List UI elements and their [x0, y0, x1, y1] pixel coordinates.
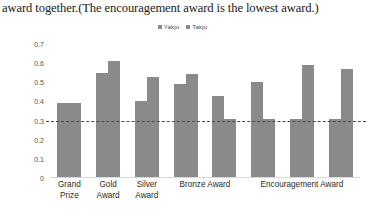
y-axis-tick-label: 0.1: [34, 155, 44, 162]
reference-line: [46, 121, 366, 122]
legend-item: Yakju: [158, 24, 180, 30]
bar-yakju: [135, 101, 147, 178]
legend-item: Takju: [186, 24, 207, 30]
chart-legend: YakjuTakju: [0, 24, 365, 30]
bar-takju: [263, 119, 275, 178]
bar-group: [251, 44, 275, 178]
bar-yakju: [57, 103, 69, 178]
x-axis-baseline: [50, 177, 360, 178]
bar-takju: [341, 69, 353, 178]
legend-label: Takju: [192, 24, 207, 30]
x-axis-labels: Grand PrizeGold AwardSilver AwardBronze …: [50, 180, 360, 216]
bar-yakju: [96, 73, 108, 178]
bar-takju: [147, 77, 159, 178]
bar-group: [329, 44, 353, 178]
y-axis-tick-label: 0.3: [34, 117, 44, 124]
y-axis-tick-label: 0.5: [34, 79, 44, 86]
bar-group: [212, 44, 236, 178]
bar-group: [290, 44, 314, 178]
bar-yakju: [174, 84, 186, 178]
bar-chart: YakjuTakju 0.70.60.50.40.30.20.10 Grand …: [0, 20, 365, 216]
legend-label: Yakju: [164, 24, 180, 30]
bar-takju: [69, 103, 81, 178]
y-axis-tick-label: 0.7: [34, 41, 44, 48]
square-swatch-icon: [186, 25, 190, 29]
x-axis-category-label: Encouragement Award: [231, 180, 370, 191]
y-axis-tick-label: 0.6: [34, 60, 44, 67]
square-swatch-icon: [158, 25, 162, 29]
y-axis-tick-label: 0.2: [34, 136, 44, 143]
bar-yakju: [251, 82, 263, 178]
y-axis-tick-label: 0.4: [34, 98, 44, 105]
bar-takju: [224, 119, 236, 178]
bar-group: [96, 44, 120, 178]
bar-yakju: [290, 119, 302, 178]
bar-yakju: [212, 96, 224, 178]
bar-group: [135, 44, 159, 178]
plot-area: 0.70.60.50.40.30.20.10: [50, 44, 360, 178]
figure-caption: award together.(The encouragement award …: [2, 1, 363, 15]
bar-series-container: [50, 44, 360, 178]
bar-group: [57, 44, 81, 178]
bar-takju: [186, 74, 198, 178]
bar-group: [174, 44, 198, 178]
bar-yakju: [329, 119, 341, 178]
